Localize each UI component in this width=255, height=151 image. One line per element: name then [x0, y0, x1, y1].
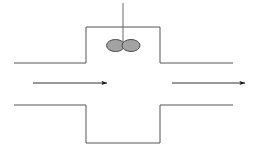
diagram-background — [0, 0, 255, 151]
valve-disc-right-half-icon — [122, 40, 140, 52]
pipe-junction-diagram — [0, 0, 255, 151]
valve-diagram-canvas — [0, 0, 255, 151]
